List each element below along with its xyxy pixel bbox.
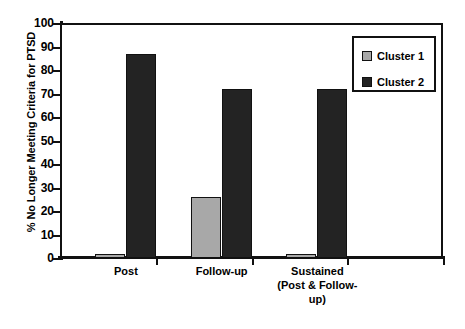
y-axis-tick bbox=[53, 211, 60, 213]
y-axis-tick-label: 10 bbox=[22, 228, 54, 242]
y-axis-tick bbox=[53, 117, 60, 119]
legend-item-cluster-1: Cluster 1 bbox=[362, 45, 434, 66]
y-axis-tick-label: 40 bbox=[22, 157, 54, 171]
x-axis-tick bbox=[443, 258, 445, 265]
y-axis-tick-label: 60 bbox=[22, 110, 54, 124]
y-axis-tick bbox=[53, 94, 60, 96]
y-axis-tick bbox=[53, 141, 60, 143]
x-axis-category-label: Sustained(Post & Follow-up) bbox=[257, 264, 377, 306]
y-axis-tick-label: 20 bbox=[22, 204, 54, 218]
y-axis-tick-label: 30 bbox=[22, 181, 54, 195]
y-axis-tick-label: 90 bbox=[22, 40, 54, 54]
x-axis-category-label-line: (Post & Follow- bbox=[257, 278, 377, 292]
y-axis-tick bbox=[53, 164, 60, 166]
y-axis-tick bbox=[53, 23, 60, 25]
legend-label-cluster-1: Cluster 1 bbox=[377, 50, 424, 62]
bar-cluster-1-1 bbox=[191, 197, 221, 258]
bar-cluster-2-2 bbox=[317, 89, 347, 258]
legend-label-cluster-2: Cluster 2 bbox=[377, 76, 424, 88]
y-axis-tick-label: 0 bbox=[22, 251, 54, 265]
y-axis-tick-label: 50 bbox=[22, 134, 54, 148]
y-axis-tick bbox=[53, 47, 60, 49]
ptsd-criteria-bar-chart: % No Longer Meeting Criteria for PTSD 01… bbox=[0, 0, 465, 329]
bar-cluster-2-1 bbox=[222, 89, 252, 258]
y-axis-tick bbox=[53, 70, 60, 72]
x-axis-category-labels: PostFollow-upSustained(Post & Follow-up) bbox=[60, 264, 443, 326]
chart-legend: Cluster 1 Cluster 2 bbox=[352, 36, 436, 92]
x-axis-category-label-line: Sustained bbox=[257, 264, 377, 278]
y-axis-tick bbox=[53, 235, 60, 237]
legend-item-cluster-2: Cluster 2 bbox=[362, 71, 434, 92]
x-axis-category-label-line: up) bbox=[257, 292, 377, 306]
y-axis-tick-label: 80 bbox=[22, 63, 54, 77]
y-axis-tick-label: 70 bbox=[22, 87, 54, 101]
cluster-1-swatch-icon bbox=[362, 51, 372, 61]
bar-cluster-2-0 bbox=[126, 54, 156, 258]
cluster-2-swatch-icon bbox=[362, 77, 372, 87]
y-axis-tick-label: 100 bbox=[22, 16, 54, 30]
y-axis-tick-labels: 0102030405060708090100 bbox=[22, 16, 54, 266]
y-axis-tick bbox=[53, 188, 60, 190]
